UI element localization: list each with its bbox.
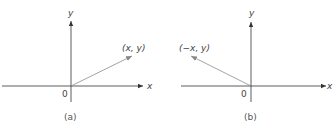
- x-axis-label: x: [326, 81, 333, 91]
- point-label: (x, y): [122, 43, 145, 53]
- y-axis-label: y: [248, 8, 255, 18]
- panel-a: y x 0 (x, y) (a): [2, 8, 153, 122]
- origin-label: 0: [62, 89, 68, 99]
- x-axis-label: x: [146, 81, 153, 91]
- panel-b: y x 0 (−x, y) (b): [179, 8, 333, 122]
- diagram-canvas: y x 0 (x, y) (a) y x 0 (−x, y) (b): [0, 0, 333, 129]
- origin-label: 0: [241, 89, 247, 99]
- panel-caption: (a): [64, 112, 77, 122]
- point-label: (−x, y): [179, 43, 210, 53]
- panel-caption: (b): [244, 112, 257, 122]
- vector-arrow: [191, 56, 251, 86]
- y-axis-label: y: [67, 8, 74, 18]
- vector-arrow: [71, 56, 132, 86]
